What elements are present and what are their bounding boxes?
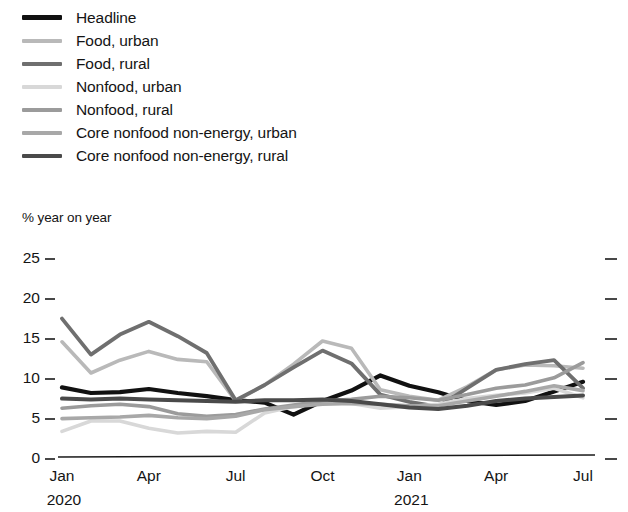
y-axis-tick-label: 20 <box>23 289 41 306</box>
line-chart-svg: 0510152025JanAprJulOctJanAprJul20202021 <box>0 0 628 512</box>
x-axis-line <box>58 455 595 457</box>
x-axis-tick-label: Jul <box>226 467 246 484</box>
x-axis-year-label: 2020 <box>47 491 82 508</box>
x-axis-tick-label: Apr <box>484 467 508 484</box>
x-axis-tick-label: Oct <box>310 467 335 484</box>
y-axis-tick-label: 25 <box>23 249 40 266</box>
x-axis-tick-label: Jul <box>573 467 593 484</box>
x-axis-tick-label: Apr <box>137 467 161 484</box>
x-axis-year-label: 2021 <box>394 491 428 508</box>
y-axis-tick-label: 15 <box>23 329 40 346</box>
y-axis-tick-label: 0 <box>31 449 40 466</box>
plot-area: 0510152025JanAprJulOctJanAprJul20202021 <box>0 0 628 512</box>
y-axis-tick-label: 10 <box>23 369 41 386</box>
y-axis-tick-label: 5 <box>31 409 40 426</box>
x-axis-tick-label: Jan <box>397 467 422 484</box>
chart-page: HeadlineFood, urbanFood, ruralNonfood, u… <box>0 0 628 512</box>
x-axis-tick-label: Jan <box>50 467 75 484</box>
